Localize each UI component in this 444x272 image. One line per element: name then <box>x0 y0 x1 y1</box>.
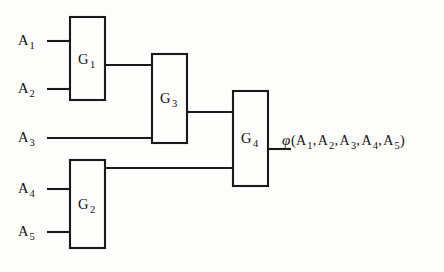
input-label-a1: A1 <box>18 33 35 48</box>
input-label-a3: A3 <box>18 130 35 145</box>
gate-label-g2: G2 <box>78 197 95 212</box>
gate-label-g1: G1 <box>78 52 95 67</box>
circuit-diagram-canvas: A1 A2 A3 A4 A5 G1 G2 G3 G4 φ(A1, A2, A3,… <box>0 0 444 272</box>
input-label-a5: A5 <box>18 224 35 239</box>
gate-label-g3: G3 <box>160 91 177 106</box>
input-label-a2: A2 <box>18 81 35 96</box>
gate-label-g4: G4 <box>241 131 258 146</box>
output-expression: φ(A1, A2, A3, A4, A5) <box>282 133 405 148</box>
input-label-a4: A4 <box>18 181 35 196</box>
